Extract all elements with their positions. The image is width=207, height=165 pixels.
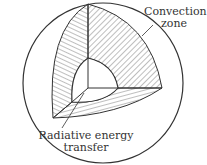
convection-zone-label: Convection zone xyxy=(144,6,204,30)
radiative-label-line2: transfer xyxy=(36,142,136,154)
convection-label-line2: zone xyxy=(144,18,204,30)
radiative-transfer-label: Radiative energy transfer xyxy=(36,130,136,154)
